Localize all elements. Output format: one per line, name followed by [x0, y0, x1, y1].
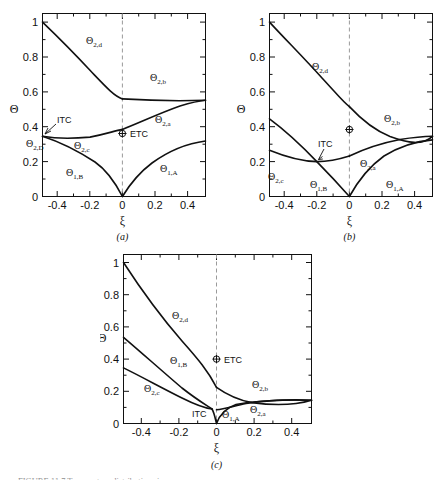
svg-text:0.4: 0.4 — [250, 121, 265, 133]
svg-text:0: 0 — [32, 191, 38, 203]
svg-text:0.2: 0.2 — [250, 156, 265, 168]
panel-b-plot: ITC Θ2,d Θ2,b Θ2,a Θ2,c Θ1,B Θ1,A 0 0.2 … — [224, 0, 447, 243]
curve-theta-1B — [124, 337, 213, 409]
svg-text:Θ2,D: Θ2,D — [26, 138, 44, 152]
curve-theta-2c — [43, 129, 123, 138]
svg-text:0: 0 — [346, 199, 352, 211]
svg-text:0.6: 0.6 — [23, 86, 38, 98]
panel-c-yaxis-title: Θ — [100, 331, 107, 345]
panel-c-etc-label: ETC — [224, 355, 243, 365]
panel-b-itc-marker: ITC — [318, 139, 333, 160]
panel-c-xaxis-title: ξ — [214, 441, 220, 455]
svg-text:0.8: 0.8 — [250, 51, 265, 63]
svg-text:0.8: 0.8 — [104, 289, 119, 301]
panel-a-plot: ITC ETC Θ2,d Θ2,b Θ2,a Θ2,c Θ2,D Θ1,B Θ1… — [0, 0, 224, 243]
svg-text:0.2: 0.2 — [147, 199, 162, 211]
svg-text:Θ2,d: Θ2,d — [172, 310, 188, 324]
svg-text:Θ1,B: Θ1,B — [66, 167, 83, 181]
svg-text:Θ2,d: Θ2,d — [312, 61, 328, 75]
svg-text:Θ2,a: Θ2,a — [360, 158, 376, 172]
panel-c-etc-marker: ETC — [212, 355, 242, 365]
curve-theta-2d — [270, 22, 350, 107]
svg-text:Θ1,A: Θ1,A — [160, 163, 178, 177]
svg-text:-0.2: -0.2 — [307, 199, 326, 211]
panel-c-frame — [124, 255, 312, 424]
svg-text:0.4: 0.4 — [180, 199, 195, 211]
svg-text:0.2: 0.2 — [246, 426, 261, 438]
svg-text:Θ1,B: Θ1,B — [310, 179, 327, 193]
panel-c: ITC ETC Θ2,d Θ1,B Θ2,c Θ2,b Θ2,a Θ1,A 0 … — [100, 240, 350, 472]
panel-c-label: (c) — [211, 459, 223, 471]
svg-text:Θ1,A: Θ1,A — [386, 179, 404, 193]
panel-c-plot: ITC ETC Θ2,d Θ1,B Θ2,c Θ2,b Θ2,a Θ1,A 0 … — [100, 240, 350, 472]
svg-text:1: 1 — [113, 257, 119, 269]
panel-b-etc-marker — [345, 125, 353, 133]
curve-theta-2a — [349, 136, 432, 156]
curve-theta-1B-tail — [212, 409, 217, 424]
svg-text:1: 1 — [259, 16, 265, 28]
svg-text:0.6: 0.6 — [250, 86, 265, 98]
panel-b-itc-label: ITC — [318, 139, 333, 149]
panel-a: ITC ETC Θ2,d Θ2,b Θ2,a Θ2,c Θ2,D Θ1,B Θ1… — [0, 0, 224, 243]
svg-text:Θ2,b: Θ2,b — [252, 379, 268, 393]
svg-text:Θ2,c: Θ2,c — [268, 171, 284, 185]
svg-text:0: 0 — [213, 426, 219, 438]
svg-text:0.2: 0.2 — [374, 199, 389, 211]
panel-a-etc-marker: ETC — [118, 129, 148, 139]
curve-theta-2c — [270, 150, 350, 161]
panel-b-xtick-labels: -0.4 -0.2 0 0.2 0.4 — [275, 199, 423, 211]
panel-b-curve-labels: Θ2,d Θ2,b Θ2,a Θ2,c Θ1,B Θ1,A — [268, 61, 404, 193]
svg-text:0: 0 — [113, 418, 119, 430]
svg-text:Θ2,a: Θ2,a — [250, 404, 266, 418]
svg-text:0.4: 0.4 — [284, 426, 299, 438]
panel-c-curves — [124, 263, 312, 424]
panel-b-curves — [270, 22, 433, 196]
svg-text:0: 0 — [119, 199, 125, 211]
panel-a-curve-labels: Θ2,d Θ2,b Θ2,a Θ2,c Θ2,D Θ1,B Θ1,A — [26, 35, 178, 181]
svg-text:Θ2,d: Θ2,d — [86, 35, 102, 49]
svg-text:-0.4: -0.4 — [275, 199, 294, 211]
panel-a-itc-label: ITC — [57, 115, 72, 125]
svg-text:0.2: 0.2 — [23, 156, 38, 168]
svg-text:-0.4: -0.4 — [48, 199, 67, 211]
svg-text:-0.4: -0.4 — [132, 426, 151, 438]
svg-text:Θ2,a: Θ2,a — [155, 114, 171, 128]
panel-b-xaxis-title: ξ — [347, 214, 353, 228]
panel-b: ITC Θ2,d Θ2,b Θ2,a Θ2,c Θ1,B Θ1,A 0 0.2 … — [224, 0, 447, 243]
svg-text:Θ1,B: Θ1,B — [170, 355, 187, 369]
panel-c-xtick-labels: -0.4 -0.2 0 0.2 0.4 — [132, 426, 300, 438]
panel-a-etc-label: ETC — [130, 129, 149, 139]
panel-a-itc-marker: ITC — [45, 115, 72, 134]
svg-text:-0.2: -0.2 — [169, 426, 188, 438]
svg-text:Θ2,b: Θ2,b — [384, 113, 400, 127]
svg-text:0.8: 0.8 — [23, 51, 38, 63]
panel-c-itc-label: ITC — [192, 409, 207, 419]
svg-text:0.4: 0.4 — [407, 199, 422, 211]
svg-text:0.4: 0.4 — [104, 353, 119, 365]
panel-a-yaxis-title: Θ — [10, 102, 19, 116]
panel-b-ytick-labels: 0 0.2 0.4 0.6 0.8 1 — [250, 16, 265, 202]
curve-theta-2b — [122, 99, 205, 101]
panel-a-xaxis-title: ξ — [120, 214, 126, 228]
figure-caption: FIGURE 11.7 Temperature distributions in… — [18, 476, 433, 486]
svg-text:Θ1,A: Θ1,A — [222, 409, 240, 423]
curve-theta-2d — [124, 263, 217, 388]
svg-text:0.2: 0.2 — [104, 385, 119, 397]
panel-b-yaxis-title: Θ — [237, 102, 246, 116]
svg-text:0: 0 — [259, 191, 265, 203]
curve-theta-2c — [124, 368, 213, 409]
panel-a-ytick-labels: 0 0.2 0.4 0.6 0.8 1 — [23, 16, 38, 202]
svg-text:-0.2: -0.2 — [80, 199, 99, 211]
svg-text:1: 1 — [32, 16, 38, 28]
curve-theta-2d — [43, 22, 123, 99]
panel-a-xtick-labels: -0.4 -0.2 0 0.2 0.4 — [48, 199, 196, 211]
panel-b-frame — [270, 14, 433, 197]
svg-text:Θ2,b: Θ2,b — [150, 72, 166, 86]
svg-text:0.4: 0.4 — [23, 121, 38, 133]
